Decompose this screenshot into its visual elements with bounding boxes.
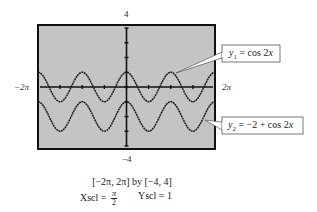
callout-y2-rest: = −2 + cos 2	[236, 119, 289, 130]
ymax-label: 4	[124, 9, 129, 19]
xscl-fraction: π2	[111, 190, 117, 207]
xmin-label: −2π	[14, 82, 29, 92]
callout-y2-x: x	[289, 119, 293, 130]
xscl-setting: Xscl = π2	[80, 190, 117, 207]
graph-figure: 4 −4 −2π 2π y1 = cos 2x y2 = −2 + cos 2x…	[0, 0, 317, 212]
callout-y1-text: y1 = cos 2x	[229, 47, 273, 61]
xscl-denominator: 2	[111, 199, 117, 207]
window-settings: [−2π, 2π] by [−4, 4]	[62, 176, 202, 187]
callout-y2-text: y2 = −2 + cos 2x	[228, 119, 293, 133]
callout-y1-rest: = cos 2	[237, 47, 268, 58]
callout-y1-x: x	[268, 47, 272, 58]
yscl-setting: Yscl = 1	[138, 190, 172, 201]
ymin-label: −4	[122, 154, 132, 164]
xmax-label: 2π	[222, 82, 231, 92]
xscl-label: Xscl =	[80, 192, 109, 203]
